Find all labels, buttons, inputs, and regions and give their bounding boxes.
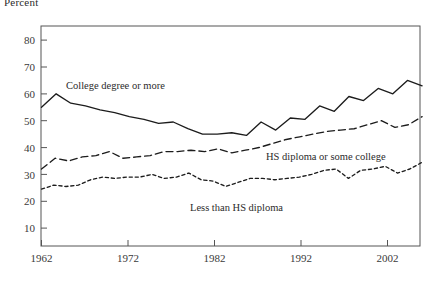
chart-svg: 80 70 60 50 40 30 20 10 1962 1972 1982 1…	[0, 0, 430, 284]
y-tick-label: 70	[24, 61, 36, 73]
y-tick-label: 50	[24, 115, 36, 127]
y-tick-label: 30	[24, 169, 36, 181]
x-tick-label: 1982	[204, 252, 226, 264]
x-axis-ticks	[42, 240, 388, 246]
y-axis-ticks	[41, 40, 47, 228]
x-tick-label: 1992	[290, 252, 312, 264]
y-tick-label: 10	[24, 222, 36, 234]
chart-figure: Percent 80 70 60 50 40 30 20 10	[0, 0, 430, 284]
y-tick-label: 60	[24, 88, 36, 100]
y-tick-label: 80	[24, 34, 36, 46]
y-tick-label: 20	[24, 195, 36, 207]
x-tick-label: 2002	[377, 252, 399, 264]
x-axis-tick-labels: 1962 1972 1982 1992 2002	[31, 252, 399, 264]
series-label-less-than-hs: Less than HS diploma	[190, 202, 283, 213]
y-tick-label: 40	[24, 142, 36, 154]
x-tick-label: 1962	[31, 252, 53, 264]
series-label-college: College degree or more	[66, 80, 165, 91]
series-label-hs-diploma: HS diploma or some college	[266, 151, 386, 162]
x-tick-label: 1972	[117, 252, 139, 264]
plot-frame	[41, 26, 420, 246]
y-axis-tick-labels: 80 70 60 50 40 30 20 10	[24, 34, 36, 234]
series-line-less-than-hs	[42, 162, 423, 189]
